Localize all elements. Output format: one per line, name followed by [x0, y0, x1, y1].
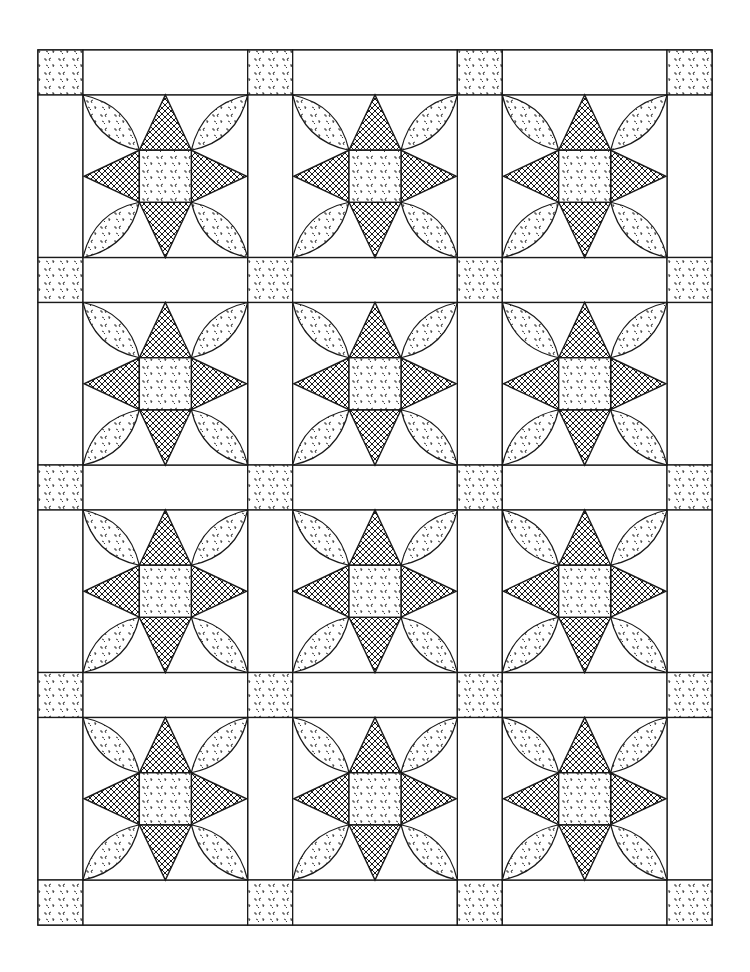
sashing-vertical	[457, 718, 502, 881]
cornerstone	[457, 880, 502, 925]
quilt-content	[38, 50, 712, 925]
star-center-square	[139, 358, 191, 410]
cornerstone	[667, 258, 712, 303]
cornerstone	[38, 880, 83, 925]
sashing-vertical	[38, 303, 83, 466]
cornerstone	[667, 673, 712, 718]
cornerstone	[667, 50, 712, 95]
cornerstone	[457, 673, 502, 718]
sashing-vertical	[38, 95, 83, 258]
sashing-vertical	[667, 510, 712, 673]
sashing-vertical	[248, 303, 293, 466]
star-center-square	[139, 773, 191, 825]
sashing-horizontal	[83, 880, 248, 925]
sashing-horizontal	[83, 673, 248, 718]
sashing-horizontal	[502, 258, 667, 303]
cornerstone	[38, 50, 83, 95]
sashing-vertical	[457, 510, 502, 673]
star-center-square	[349, 565, 401, 617]
star-center-square	[349, 150, 401, 202]
sashing-horizontal	[293, 673, 458, 718]
sashing-horizontal	[502, 673, 667, 718]
cornerstone	[457, 258, 502, 303]
star-center-square	[349, 773, 401, 825]
sashing-vertical	[248, 95, 293, 258]
sashing-vertical	[667, 303, 712, 466]
cornerstone	[667, 465, 712, 510]
cornerstone	[457, 465, 502, 510]
cornerstone	[248, 258, 293, 303]
sashing-horizontal	[83, 465, 248, 510]
cornerstone	[248, 465, 293, 510]
cornerstone	[457, 50, 502, 95]
sashing-vertical	[248, 718, 293, 881]
star-center-square	[559, 773, 611, 825]
star-center-square	[139, 565, 191, 617]
cornerstone	[38, 258, 83, 303]
star-center-square	[559, 565, 611, 617]
sashing-vertical	[667, 718, 712, 881]
sashing-horizontal	[83, 258, 248, 303]
star-center-square	[559, 150, 611, 202]
cornerstone	[667, 880, 712, 925]
star-center-square	[349, 358, 401, 410]
sashing-vertical	[38, 718, 83, 881]
star-center-square	[559, 358, 611, 410]
sashing-horizontal	[293, 880, 458, 925]
sashing-vertical	[248, 510, 293, 673]
cornerstone	[38, 465, 83, 510]
sashing-vertical	[667, 95, 712, 258]
sashing-vertical	[457, 95, 502, 258]
sashing-vertical	[38, 510, 83, 673]
sashing-horizontal	[83, 50, 248, 95]
cornerstone	[248, 50, 293, 95]
cornerstone	[248, 880, 293, 925]
cornerstone	[38, 673, 83, 718]
cornerstone	[248, 673, 293, 718]
sashing-horizontal	[502, 880, 667, 925]
star-center-square	[139, 150, 191, 202]
sashing-horizontal	[293, 465, 458, 510]
sashing-horizontal	[502, 465, 667, 510]
sashing-horizontal	[502, 50, 667, 95]
sashing-vertical	[457, 303, 502, 466]
sashing-horizontal	[293, 50, 458, 95]
sashing-horizontal	[293, 258, 458, 303]
quilt-drawing	[0, 0, 750, 972]
